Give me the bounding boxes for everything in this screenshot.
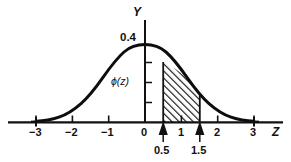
x-axis-title: Z — [272, 126, 279, 138]
marker-arrow-lower — [159, 121, 168, 142]
marker-arrow-upper — [195, 121, 204, 142]
x-tick-label-0: 0 — [141, 127, 147, 138]
x-tick-label--2: −2 — [65, 127, 78, 138]
x-tick-label-2: 2 — [214, 127, 220, 138]
x-tick-label--3: −3 — [29, 127, 42, 138]
marker-label-lower: 0.5 — [154, 145, 169, 156]
x-tick-label--1: −1 — [101, 127, 114, 138]
y-axis-ticks — [145, 63, 152, 103]
y-peak-label: 0.4 — [120, 32, 136, 44]
y-axis-title: Y — [133, 6, 141, 18]
x-tick-label-3: 3 — [250, 127, 256, 138]
marker-label-upper: 1.5 — [191, 145, 206, 156]
normal-distribution-figure: Y Z 0.4 ϕ(z) −3 −2 −1 0 1 2 3 0.5 1.5 — [0, 0, 291, 162]
density-function-label: ϕ(z) — [111, 76, 129, 87]
x-tick-label-1: 1 — [178, 127, 184, 138]
